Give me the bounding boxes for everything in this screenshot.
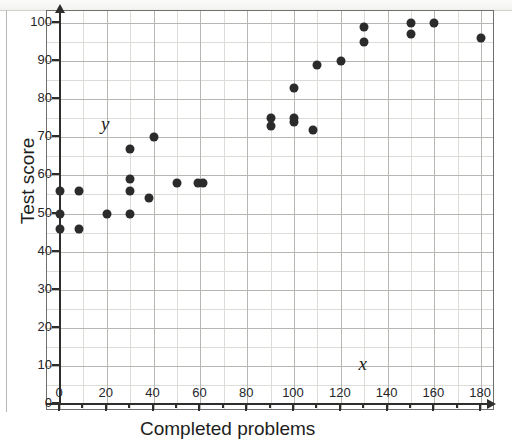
x-axis-tick-label: 0 <box>39 386 79 399</box>
gridline-minor-horizontal <box>47 309 493 310</box>
gridline-vertical <box>247 11 248 409</box>
data-point <box>126 209 135 218</box>
plot-area <box>46 10 494 410</box>
x-axis-tick-label: 60 <box>179 386 219 399</box>
y-axis-tick <box>52 135 59 137</box>
gridline-horizontal <box>47 290 493 291</box>
data-point <box>360 38 369 47</box>
data-point <box>149 133 158 142</box>
data-point <box>407 30 416 39</box>
gridline-minor-vertical <box>83 11 84 409</box>
gridline-minor-horizontal <box>47 233 493 234</box>
y-axis-tick-label: 10 <box>0 358 52 371</box>
gridline-vertical <box>154 11 155 409</box>
y-axis-arrow-icon <box>55 4 65 13</box>
gridline-minor-horizontal <box>47 156 493 157</box>
y-axis-tick <box>52 97 59 99</box>
x-axis-tick-label: 140 <box>367 386 407 399</box>
y-axis-tick-label: 90 <box>0 53 52 66</box>
data-point <box>173 179 182 188</box>
gridline-minor-vertical <box>317 11 318 409</box>
data-point <box>126 144 135 153</box>
y-variable-label: y <box>101 113 109 135</box>
gridline-vertical <box>388 11 389 409</box>
x-axis-minor-tick <box>362 404 364 408</box>
gridline-vertical <box>341 11 342 409</box>
data-point <box>290 114 299 123</box>
x-axis-tick-label: 80 <box>226 386 266 399</box>
gridline-vertical <box>481 11 482 409</box>
data-point <box>290 83 299 92</box>
y-axis-tick <box>52 250 59 252</box>
gridline-horizontal <box>47 175 493 176</box>
gridline-minor-vertical <box>177 11 178 409</box>
gridline-minor-horizontal <box>47 194 493 195</box>
x-axis-minor-tick <box>409 404 411 408</box>
x-axis-tick-label: 40 <box>133 386 173 399</box>
x-axis-tick-label: 160 <box>413 386 453 399</box>
y-axis-tick-label: 30 <box>0 282 52 295</box>
data-point <box>477 34 486 43</box>
x-axis-minor-tick <box>222 404 224 408</box>
gridline-vertical <box>434 11 435 409</box>
data-point <box>266 114 275 123</box>
x-axis-tick <box>58 404 60 411</box>
data-point <box>74 224 83 233</box>
x-axis-arrow-icon <box>487 399 496 409</box>
gridline-horizontal <box>47 214 493 215</box>
gridline-minor-horizontal <box>47 42 493 43</box>
data-point <box>407 19 416 28</box>
gridline-horizontal <box>47 328 493 329</box>
data-point <box>102 209 111 218</box>
x-axis-minor-tick <box>315 404 317 408</box>
x-axis-tick <box>152 404 154 411</box>
x-axis-tick-label: 20 <box>86 386 126 399</box>
y-axis-tick <box>52 288 59 290</box>
x-axis-tick <box>339 404 341 411</box>
y-axis-tick <box>52 173 59 175</box>
x-axis-minor-tick <box>128 404 130 408</box>
y-axis-tick <box>52 212 59 214</box>
x-axis-minor-tick <box>175 404 177 408</box>
gridline-minor-horizontal <box>47 347 493 348</box>
data-point <box>336 57 345 66</box>
data-point <box>126 186 135 195</box>
gridline-minor-vertical <box>458 11 459 409</box>
x-axis-minor-tick <box>81 404 83 408</box>
x-axis-tick <box>198 404 200 411</box>
x-axis-minor-tick <box>456 404 458 408</box>
data-point <box>360 22 369 31</box>
x-variable-label: x <box>359 353 367 375</box>
gridline-vertical <box>294 11 295 409</box>
x-axis-tick <box>432 404 434 411</box>
gridline-horizontal <box>47 137 493 138</box>
data-point <box>126 175 135 184</box>
x-axis-tick-label: 180 <box>460 386 500 399</box>
y-axis-tick-label: 20 <box>0 320 52 333</box>
x-axis-tick <box>479 404 481 411</box>
gridline-minor-vertical <box>271 11 272 409</box>
y-axis-title: Test score <box>17 101 39 261</box>
data-point <box>430 19 439 28</box>
y-axis-tick <box>52 21 59 23</box>
data-point <box>144 194 153 203</box>
gridline-minor-vertical <box>364 11 365 409</box>
data-point <box>198 179 207 188</box>
y-axis-tick <box>52 59 59 61</box>
gridline-vertical <box>200 11 201 409</box>
data-point <box>308 125 317 134</box>
x-axis-tick <box>245 404 247 411</box>
x-axis-tick <box>105 404 107 411</box>
y-axis-tick <box>52 326 59 328</box>
gridline-horizontal <box>47 23 493 24</box>
gridline-minor-vertical <box>224 11 225 409</box>
x-axis-tick <box>292 404 294 411</box>
gridline-minor-horizontal <box>47 80 493 81</box>
x-axis-tick-label: 120 <box>320 386 360 399</box>
y-axis-line <box>59 10 61 405</box>
x-axis-minor-tick <box>269 404 271 408</box>
gridline-horizontal <box>47 366 493 367</box>
y-axis-tick-label: 100 <box>0 15 52 28</box>
x-axis-tick <box>386 404 388 411</box>
data-point <box>313 60 322 69</box>
